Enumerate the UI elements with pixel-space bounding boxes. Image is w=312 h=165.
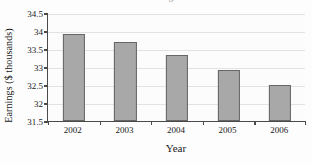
bar-slot — [151, 14, 203, 121]
bar — [166, 55, 188, 121]
y-axis-tick-label: 32 — [34, 100, 43, 109]
bar — [269, 85, 291, 121]
x-axis-tick-label: 2006 — [270, 125, 288, 136]
x-axis-tick-labels: 20022003200420052006 — [47, 125, 305, 139]
x-axis-tick-label: 2005 — [219, 125, 237, 136]
y-axis-tick-label: 34.5 — [27, 10, 43, 19]
clipped-chart-title: g — [156, 0, 186, 2]
y-axis-tick-labels: 34.53433.53332.53231.5 — [16, 0, 46, 165]
x-axis-tick-label: 2003 — [115, 125, 133, 136]
x-axis-tick-label: 2004 — [167, 125, 185, 136]
bar — [114, 42, 136, 121]
plot-area — [47, 14, 305, 122]
bar-slot — [254, 14, 306, 121]
y-axis-title: Earnings ($ thousands) — [0, 20, 16, 130]
bar-slot — [48, 14, 100, 121]
bar — [63, 34, 85, 121]
bars-group — [48, 14, 305, 121]
bar-chart-figure: g Earnings ($ thousands) 34.53433.53332.… — [0, 0, 312, 165]
bar — [218, 70, 240, 121]
y-axis-tick-label: 33.5 — [27, 46, 43, 55]
y-axis-tick-label: 34 — [34, 28, 43, 37]
x-axis-tick-label: 2002 — [64, 125, 82, 136]
y-axis-tick-label: 31.5 — [27, 118, 43, 127]
bar-slot — [203, 14, 255, 121]
y-axis-tick-label: 32.5 — [27, 82, 43, 91]
bar-slot — [100, 14, 152, 121]
y-axis-tick-label: 33 — [34, 64, 43, 73]
x-axis-title: Year — [47, 142, 305, 155]
y-axis-title-text: Earnings ($ thousands) — [3, 28, 14, 122]
